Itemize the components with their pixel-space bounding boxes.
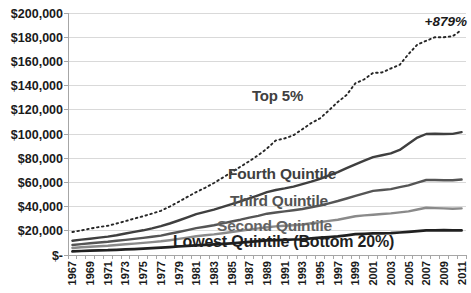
growth-annotation: +879% xyxy=(425,14,467,29)
series-label-second-quintile: Second Quintile xyxy=(217,218,332,234)
x-axis-label: 1969 xyxy=(84,261,96,285)
x-axis-label: 1997 xyxy=(332,261,344,285)
x-axis-label: 1973 xyxy=(119,261,131,285)
income-quintile-chart: $200,000$180,000$160,000$140,000$120,000… xyxy=(0,0,471,293)
x-axis-label: 1993 xyxy=(296,261,308,285)
y-axis-label: $200,000 xyxy=(11,7,63,21)
x-axis-label: 2005 xyxy=(403,261,415,285)
y-axis-label: $180,000 xyxy=(11,31,63,45)
x-axis-label: 1975 xyxy=(137,261,149,285)
x-axis-label: 1983 xyxy=(208,261,220,285)
y-axis-label: $60,000 xyxy=(18,176,63,190)
x-axis-label: 2009 xyxy=(438,261,450,285)
x-axis-label: 1971 xyxy=(102,261,114,285)
series-label-fourth-quintile: Fourth Quintile xyxy=(228,166,336,182)
x-axis-label: 1999 xyxy=(349,261,361,285)
y-axis-label: $20,000 xyxy=(18,224,63,238)
x-axis-label: 2007 xyxy=(420,261,432,285)
y-axis-label: $40,000 xyxy=(18,200,63,214)
y-axis-label: $100,000 xyxy=(11,128,63,142)
x-axis-label: 1987 xyxy=(243,261,255,285)
y-axis-label: $140,000 xyxy=(11,79,63,93)
x-axis-label: 1989 xyxy=(261,261,273,285)
y-axis-label: $160,000 xyxy=(11,55,63,69)
x-axis-label: 1995 xyxy=(314,261,326,285)
x-axis-label: 2003 xyxy=(385,261,397,285)
x-axis-label: 1979 xyxy=(173,261,185,285)
series-label-third-quintile: Third Quintile xyxy=(230,193,328,209)
x-axis-label: 1985 xyxy=(226,261,238,285)
series-label-lowest-quintile: Lowest Quintile (Bottom 20%) xyxy=(173,234,394,250)
x-axis-label: 1977 xyxy=(155,261,167,285)
x-axis-label: 2001 xyxy=(367,261,379,285)
x-axis-label: 1981 xyxy=(190,261,202,285)
y-axis-label: $80,000 xyxy=(18,152,63,166)
x-axis-label: 2011 xyxy=(456,261,468,285)
x-axis-label: 1967 xyxy=(66,261,78,285)
y-axis-label: $120,000 xyxy=(11,103,63,117)
series-label-top5: Top 5% xyxy=(252,88,303,103)
x-axis-label: 1991 xyxy=(279,261,291,285)
y-axis-label: $- xyxy=(52,249,63,263)
